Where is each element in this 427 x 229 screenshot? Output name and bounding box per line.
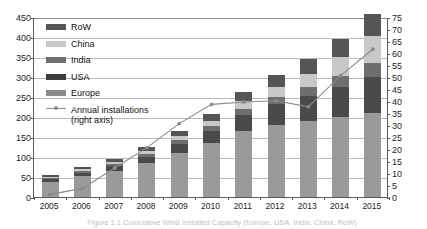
y-axis-right-tick-label: 70	[392, 26, 414, 35]
y-axis-right-tick	[387, 102, 390, 103]
y-axis-right-tick-label: 50	[392, 74, 414, 83]
x-axis-label: 2006	[64, 201, 98, 211]
x-axis-tick	[99, 197, 100, 200]
y-axis-right-tick-label: 30	[392, 122, 414, 131]
y-axis-left-tick-label: 0	[3, 194, 31, 203]
y-axis-right-tick-label: 35	[392, 110, 414, 119]
y-axis-right-tick	[387, 66, 390, 67]
y-axis-left-tick-label: 50	[3, 174, 31, 183]
bar-segment-europe	[106, 171, 123, 197]
bar-segment-usa	[364, 77, 381, 113]
bar-segment-usa	[171, 144, 188, 153]
x-axis-tick	[357, 197, 358, 200]
chart-figure: 450400350300250200150100500 757065605550…	[0, 0, 427, 229]
y-axis-left-tick	[31, 118, 34, 119]
y-axis-left: 450400350300250200150100500	[0, 0, 31, 229]
x-axis-tick	[228, 197, 229, 200]
bar-segment-europe	[138, 163, 155, 197]
bar-segment-europe	[364, 113, 381, 197]
y-axis-left-tick	[31, 58, 34, 59]
bar-segment-india	[268, 97, 285, 104]
x-axis-label: 2013	[290, 201, 324, 211]
y-axis-right-tick-label: 20	[392, 146, 414, 155]
bar-stack	[106, 159, 123, 197]
y-axis-right-tick-label: 5	[392, 182, 414, 191]
legend-swatch-row	[46, 24, 66, 30]
x-axis-label: 2008	[129, 201, 163, 211]
legend-label-row: RoW	[71, 22, 91, 32]
legend-swatch-china	[46, 41, 66, 47]
y-axis-right-tick-label: 15	[392, 158, 414, 167]
bar-segment-india	[364, 63, 381, 77]
y-axis-left-tick-label: 300	[3, 74, 31, 83]
bar-segment-china	[74, 169, 91, 171]
legend-item-row: RoW	[46, 19, 168, 36]
x-axis-label: 2009	[161, 201, 195, 211]
x-axis-tick	[131, 197, 132, 200]
bar-segment-india	[42, 178, 59, 180]
legend-item-usa: USA	[46, 69, 168, 86]
bar-stack	[268, 75, 285, 197]
x-axis-tick	[163, 197, 164, 200]
legend-item-china: China	[46, 36, 168, 53]
legend-line-marker-icon	[46, 105, 66, 112]
y-axis-right-tick-label: 10	[392, 170, 414, 179]
bar-segment-usa	[235, 115, 252, 131]
bar-segment-usa	[332, 87, 349, 117]
bar-stack	[235, 92, 252, 197]
bar-stack	[171, 131, 188, 197]
bar-stack	[138, 147, 155, 197]
y-axis-left-tick	[31, 18, 34, 19]
bar-segment-india	[235, 109, 252, 115]
y-axis-right-tick-label: 25	[392, 134, 414, 143]
legend-label-annual-installations-line1: Annual installations	[71, 105, 149, 115]
x-axis-label: 2007	[97, 201, 131, 211]
legend-item-india: India	[46, 52, 168, 69]
y-axis-right-tick	[387, 30, 390, 31]
y-axis-right-tick	[387, 162, 390, 163]
y-axis-right-tick	[387, 90, 390, 91]
y-axis-left-tick-label: 150	[3, 134, 31, 143]
x-axis-label: 2010	[194, 201, 228, 211]
bar-segment-europe	[332, 117, 349, 197]
bar-segment-europe	[235, 131, 252, 197]
bar-segment-china	[364, 36, 381, 63]
bar-segment-china	[138, 151, 155, 154]
x-axis-tick	[292, 197, 293, 200]
bar-segment-usa	[42, 179, 59, 181]
y-axis-right-tick-label: 0	[392, 194, 414, 203]
legend-swatch-europe	[46, 90, 66, 96]
y-axis-right-tick	[387, 114, 390, 115]
y-axis-right-tick-label: 75	[392, 14, 414, 23]
legend-item-annual-installations: Annual installations (right axis)	[46, 102, 168, 127]
y-axis-left-tick-label: 250	[3, 94, 31, 103]
bar-segment-row	[171, 131, 188, 136]
bar-segment-row	[106, 159, 123, 162]
bar-stack	[300, 59, 317, 197]
bar-segment-row	[42, 175, 59, 177]
x-axis-tick	[389, 197, 390, 200]
bar-segment-europe	[203, 143, 220, 197]
x-axis-tick	[260, 197, 261, 200]
legend-swatch-india	[46, 57, 66, 63]
bar-segment-india	[138, 154, 155, 157]
x-axis-label: 2012	[258, 201, 292, 211]
bar-segment-row	[364, 14, 381, 36]
x-axis-tick	[34, 197, 35, 200]
x-axis-tick	[324, 197, 325, 200]
x-axis-label: 2005	[32, 201, 66, 211]
bar-segment-usa	[74, 173, 91, 176]
bar-segment-row	[332, 39, 349, 57]
bar-segment-china	[332, 57, 349, 76]
bar-segment-china	[203, 121, 220, 127]
x-axis-label: 2011	[226, 201, 260, 211]
y-axis-right-tick	[387, 174, 390, 175]
legend-label-china: China	[71, 39, 95, 49]
bar-segment-india	[300, 87, 317, 96]
y-axis-right-tick-label: 40	[392, 98, 414, 107]
y-axis-right-tick	[387, 186, 390, 187]
legend-swatch-usa	[46, 74, 66, 80]
bar-segment-china	[235, 101, 252, 109]
legend-label-europe: Europe	[71, 88, 100, 98]
bar-segment-china	[42, 177, 59, 178]
